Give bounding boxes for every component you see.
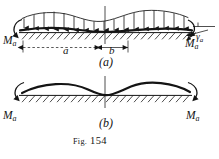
foundation-hatching-b <box>22 96 189 103</box>
beam-deflection-curve-a <box>20 28 192 32</box>
label-moment-bottom-right: Ma <box>186 110 200 123</box>
moment-subscript: a <box>13 39 17 48</box>
label-moment-bottom-left: Ma <box>3 110 17 123</box>
moment-subscript: a <box>13 114 17 123</box>
moment-symbol: M <box>3 34 13 46</box>
label-part-a: (a) <box>99 56 113 68</box>
label-angle-gamma-a: γa <box>196 33 203 44</box>
label-part-b: (b) <box>99 117 113 129</box>
dimension-b <box>102 41 128 53</box>
foundation-hatching-a <box>22 33 189 40</box>
figure-caption: Fig. 154 <box>73 136 107 147</box>
caption-number: 154 <box>90 135 107 146</box>
moment-symbol: M <box>3 109 13 121</box>
dimension-a <box>23 41 100 53</box>
label-dimension-a: a <box>63 45 69 56</box>
moment-symbol: M <box>186 109 196 121</box>
figure-drawing <box>0 0 219 159</box>
part-b-diagram <box>15 76 197 108</box>
moment-arrow-bottom-left <box>15 83 24 100</box>
angle-subscript: a <box>200 36 204 44</box>
label-moment-top-left: Ma <box>3 35 17 48</box>
figure-154: Ma Ma Ma Ma a b γa (a) (b) Fig. 154 <box>0 0 219 159</box>
moment-subscript: a <box>196 114 200 123</box>
moment-symbol: M <box>185 37 195 49</box>
moment-arrow-top-left <box>14 20 22 37</box>
caption-prefix: Fig. <box>73 137 87 146</box>
beam-deflection-curve-b <box>22 83 190 96</box>
